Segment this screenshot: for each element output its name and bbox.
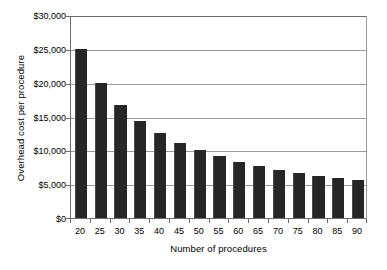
- x-axis-tickmark: [129, 219, 130, 223]
- x-axis-tickmark: [228, 219, 229, 223]
- x-axis-tick-label-group: 202530354045505560657075808590: [70, 225, 367, 239]
- bar[interactable]: [253, 166, 265, 218]
- x-axis-tick-label: 45: [174, 225, 184, 237]
- plot-area: [70, 16, 367, 219]
- y-axis-tick-label: $20,000: [26, 79, 66, 88]
- x-axis-tick-label: 80: [312, 225, 322, 237]
- y-axis-tickmark: [66, 118, 71, 119]
- x-axis-tickmark: [70, 219, 71, 223]
- x-axis-tick-label: 30: [114, 225, 124, 237]
- y-axis-tickmark: [66, 50, 71, 51]
- bar[interactable]: [194, 150, 206, 218]
- x-axis-tickmark: [366, 219, 367, 223]
- bar[interactable]: [213, 156, 225, 218]
- bar[interactable]: [233, 162, 245, 218]
- y-axis-tickmark: [66, 151, 71, 152]
- bar[interactable]: [95, 83, 107, 218]
- x-axis-tickmark: [347, 219, 348, 223]
- x-axis-tickmark: [288, 219, 289, 223]
- x-axis-tick-label: 60: [233, 225, 243, 237]
- bar[interactable]: [75, 49, 87, 218]
- x-axis-tick-label: 55: [213, 225, 223, 237]
- bar-chart-figure: Overhead cost per procedure $30,000$25,0…: [0, 0, 387, 270]
- x-axis-tick-label: 85: [332, 225, 342, 237]
- bar[interactable]: [352, 180, 364, 218]
- y-axis-tick-label: $5,000: [26, 181, 66, 190]
- x-axis-tick-label: 70: [273, 225, 283, 237]
- y-axis-tick-label: $10,000: [26, 147, 66, 156]
- x-axis-tick-label: 90: [352, 225, 362, 237]
- x-axis-tick-label: 75: [293, 225, 303, 237]
- x-axis-tick-label: 50: [194, 225, 204, 237]
- bar[interactable]: [174, 143, 186, 218]
- y-axis-tick-label: $25,000: [26, 45, 66, 54]
- x-axis-tick-label: 20: [75, 225, 85, 237]
- x-axis-title: Number of procedures: [70, 243, 367, 255]
- bar[interactable]: [114, 105, 126, 218]
- x-axis-tickmark: [248, 219, 249, 223]
- x-axis-tick-label: 40: [154, 225, 164, 237]
- bars-layer: [71, 16, 366, 218]
- x-axis-tickmark: [268, 219, 269, 223]
- x-axis-tickmark: [110, 219, 111, 223]
- x-axis-tickmark: [209, 219, 210, 223]
- x-axis-tick-label: 35: [134, 225, 144, 237]
- x-axis-tick-label: 25: [95, 225, 105, 237]
- y-axis-tick-label: $0: [26, 215, 66, 224]
- x-axis-tick-label: 65: [253, 225, 263, 237]
- bar[interactable]: [293, 173, 305, 218]
- y-axis-tick-label: $30,000: [26, 12, 66, 21]
- x-axis-tickmark: [189, 219, 190, 223]
- bar[interactable]: [273, 170, 285, 218]
- x-axis-tickmark: [169, 219, 170, 223]
- x-axis-tickmark: [149, 219, 150, 223]
- bar[interactable]: [332, 178, 344, 218]
- y-axis-tickmark: [66, 185, 71, 186]
- bar[interactable]: [154, 133, 166, 218]
- y-axis-tick-label-group: $30,000$25,000$20,000$15,000$10,000$5,00…: [26, 16, 66, 219]
- x-axis-tickmark: [327, 219, 328, 223]
- y-axis-tick-label: $15,000: [26, 113, 66, 122]
- bar[interactable]: [312, 176, 324, 218]
- x-axis-tickmark: [90, 219, 91, 223]
- y-axis-tickmark: [66, 16, 71, 17]
- y-axis-tickmark: [66, 84, 71, 85]
- bar[interactable]: [134, 121, 146, 218]
- x-axis-tickmark-group: [70, 219, 367, 224]
- x-axis-tickmark: [308, 219, 309, 223]
